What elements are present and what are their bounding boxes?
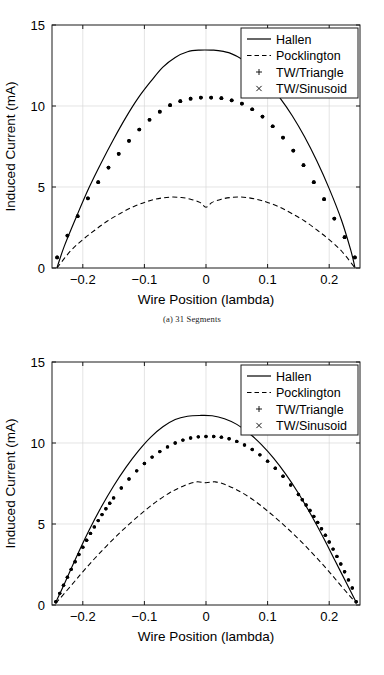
- legend-label-tw-triangle: TW/Triangle: [276, 403, 344, 417]
- data-marker: [58, 592, 61, 595]
- data-marker: [308, 509, 311, 512]
- xtick-label: 0: [202, 272, 209, 287]
- data-marker: [89, 532, 92, 535]
- xtick-label: 0: [202, 609, 209, 624]
- legend-label-tw-sinusoid: TW/Sinusoid: [276, 82, 347, 96]
- ytick-label: 15: [31, 18, 45, 33]
- legend-label-hallen: Hallen: [276, 33, 311, 47]
- data-marker: [320, 527, 323, 530]
- data-marker: [97, 519, 100, 522]
- data-marker: [66, 234, 70, 238]
- data-marker: [304, 503, 307, 506]
- data-marker: [312, 515, 315, 518]
- legend-label-tw-sinusoid: TW/Sinusoid: [276, 419, 347, 433]
- data-marker: [227, 437, 230, 440]
- xtick-label: 0.1: [259, 609, 277, 624]
- data-marker: [158, 110, 162, 114]
- x-axis-title: Wire Position (lambda): [138, 629, 275, 644]
- data-marker: [54, 600, 57, 603]
- data-marker: [297, 493, 300, 496]
- data-marker: [204, 435, 207, 438]
- data-marker: [240, 102, 244, 106]
- data-marker: [243, 443, 246, 446]
- data-marker: [331, 547, 334, 550]
- data-marker: [343, 235, 347, 239]
- data-marker: [189, 97, 193, 101]
- ytick-label: 5: [38, 180, 45, 195]
- data-marker: [85, 539, 88, 542]
- data-marker: [266, 459, 269, 462]
- xtick-label: −0.2: [70, 272, 96, 287]
- data-marker: [137, 128, 141, 132]
- ytick-label: 0: [38, 261, 45, 276]
- data-marker: [62, 584, 65, 587]
- data-marker: [108, 502, 111, 505]
- data-marker: [120, 486, 123, 489]
- data-marker: [127, 139, 131, 143]
- data-marker: [291, 149, 295, 153]
- data-marker: [258, 453, 261, 456]
- data-marker: [328, 540, 331, 543]
- data-marker: [117, 152, 121, 156]
- data-marker: [301, 498, 304, 501]
- data-marker: [212, 435, 215, 438]
- ytick-label: 0: [38, 598, 45, 613]
- panel-a: −0.2−0.100.10.2051015Wire Position (lamb…: [0, 0, 384, 337]
- y-axis-title: Induced Current (mA): [3, 419, 18, 549]
- plot-a: −0.2−0.100.10.2051015Wire Position (lamb…: [0, 0, 384, 337]
- xtick-label: −0.1: [132, 272, 158, 287]
- legend-label-pocklington: Pocklington: [276, 49, 341, 63]
- data-marker: [178, 99, 182, 103]
- data-marker: [104, 507, 107, 510]
- ytick-label: 10: [31, 436, 45, 451]
- data-marker: [274, 467, 277, 470]
- data-marker: [77, 553, 80, 556]
- ytick-label: 5: [38, 517, 45, 532]
- legend: HallenPocklingtonTW/TriangleTW/Sinusoid: [241, 28, 358, 98]
- data-marker: [261, 115, 265, 119]
- data-marker: [353, 256, 357, 260]
- legend-label-tw-triangle: TW/Triangle: [276, 66, 344, 80]
- data-marker: [135, 469, 138, 472]
- xtick-label: 0.1: [259, 272, 277, 287]
- data-marker: [302, 163, 306, 167]
- data-marker: [66, 575, 69, 578]
- plot-b: −0.2−0.100.10.2051015Wire Position (lamb…: [0, 337, 384, 674]
- xtick-label: 0.2: [320, 272, 338, 287]
- data-marker: [250, 107, 254, 111]
- data-marker: [220, 96, 224, 100]
- data-marker: [158, 450, 161, 453]
- ytick-label: 15: [31, 355, 45, 370]
- data-marker: [271, 124, 275, 128]
- data-marker: [312, 180, 316, 184]
- data-marker: [81, 545, 84, 548]
- data-marker: [168, 103, 172, 107]
- data-marker: [235, 440, 238, 443]
- data-marker: [230, 98, 234, 102]
- data-marker: [55, 256, 59, 260]
- data-marker: [189, 436, 192, 439]
- data-marker: [148, 118, 152, 122]
- data-marker: [150, 455, 153, 458]
- data-marker: [100, 513, 103, 516]
- data-marker: [281, 136, 285, 140]
- data-marker: [197, 435, 200, 438]
- xtick-label: −0.2: [70, 609, 96, 624]
- data-marker: [351, 586, 354, 589]
- data-marker: [332, 217, 336, 221]
- data-marker: [335, 555, 338, 558]
- data-marker: [73, 560, 76, 563]
- data-marker: [251, 448, 254, 451]
- data-marker: [76, 214, 80, 218]
- figure-container: −0.2−0.100.10.2051015Wire Position (lamb…: [0, 0, 384, 675]
- data-marker: [70, 568, 73, 571]
- data-marker: [112, 496, 115, 499]
- legend: HallenPocklingtonTW/TriangleTW/Sinusoid: [241, 365, 358, 435]
- data-marker: [347, 578, 350, 581]
- data-marker: [96, 180, 100, 184]
- xtick-label: −0.1: [132, 609, 158, 624]
- caption-a: (a) 31 Segments: [0, 314, 384, 324]
- data-marker: [86, 196, 90, 200]
- data-marker: [354, 600, 357, 603]
- data-marker: [220, 435, 223, 438]
